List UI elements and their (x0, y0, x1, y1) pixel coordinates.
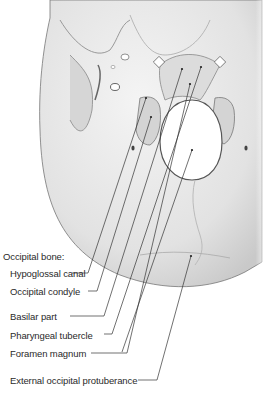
group-label-occipital-bone: Occipital bone: (3, 251, 64, 262)
label-hypoglossal-canal: Hypoglossal canal (10, 268, 85, 279)
label-foramen-magnum: Foramen magnum (10, 348, 86, 359)
label-occipital-condyle: Occipital condyle (10, 286, 80, 297)
foramen-magnum-shape (160, 100, 222, 180)
label-basilar-part: Basilar part (10, 311, 57, 322)
label-external-occipital-protuberance: External occipital protuberance (10, 375, 137, 386)
label-pharyngeal-tubercle: Pharyngeal tubercle (10, 330, 93, 341)
